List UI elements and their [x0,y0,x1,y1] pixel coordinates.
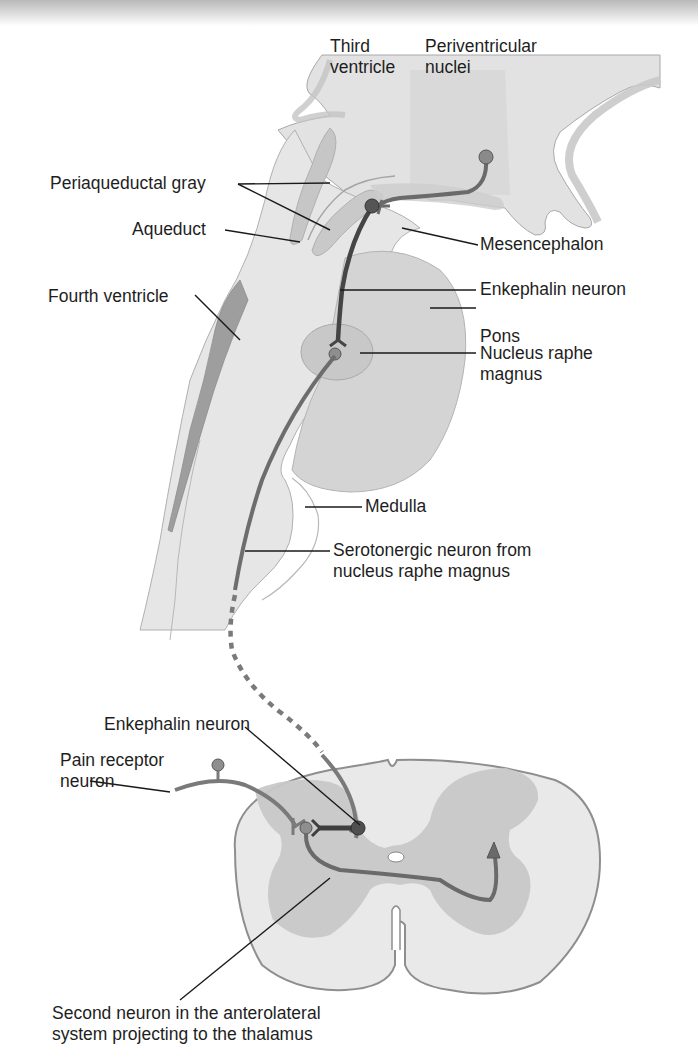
label-periventricular-nuclei: Periventricular nuclei [425,36,537,78]
anterior-median-fissure [392,906,400,950]
periventricular-region [410,70,510,195]
label-serotonergic-neuron: Serotonergic neuron from nucleus raphe m… [333,540,531,582]
label-nucleus-raphe-magnus: Nucleus raphe magnus [480,343,593,385]
label-second-neuron: Second neuron in the anterolateral syste… [52,1003,321,1045]
label-enkephalin-neuron-brain: Enkephalin neuron [480,279,626,300]
label-third-ventricle: Third ventricle [330,36,395,78]
pain-pathway-diagram [0,0,698,1057]
label-pain-receptor-neuron: Pain receptor neuron [60,750,164,792]
central-canal [388,852,404,862]
label-aqueduct: Aqueduct [132,219,206,240]
label-enkephalin-neuron-spinal: Enkephalin neuron [104,714,250,735]
label-medulla: Medulla [365,496,426,517]
label-periaqueductal-gray: Periaqueductal gray [50,173,206,194]
label-fourth-ventricle: Fourth ventricle [48,286,169,307]
label-mesencephalon: Mesencephalon [480,234,604,255]
